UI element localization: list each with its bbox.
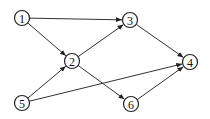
node-label: 5 [19,97,25,111]
node-label: 2 [69,55,75,69]
edges-layer [28,18,184,101]
node-label: 4 [187,56,193,70]
node-4: 4 [183,55,198,70]
node-label: 6 [128,98,134,112]
edge-6-to-4 [137,67,183,100]
edge-2-to-6 [78,65,124,99]
edge-5-to-4 [29,64,182,101]
node-label: 1 [19,12,25,26]
edge-2-to-3 [78,25,123,57]
edge-3-to-4 [136,24,183,57]
edge-1-to-3 [29,18,122,20]
node-1: 1 [15,11,30,26]
node-label: 3 [127,14,133,28]
node-5: 5 [15,96,30,111]
node-3: 3 [123,13,138,28]
edge-1-to-2 [28,23,66,56]
node-2: 2 [65,54,80,69]
graph-diagram: 123456 [0,0,210,119]
node-6: 6 [124,97,139,112]
nodes-layer: 123456 [15,11,198,112]
